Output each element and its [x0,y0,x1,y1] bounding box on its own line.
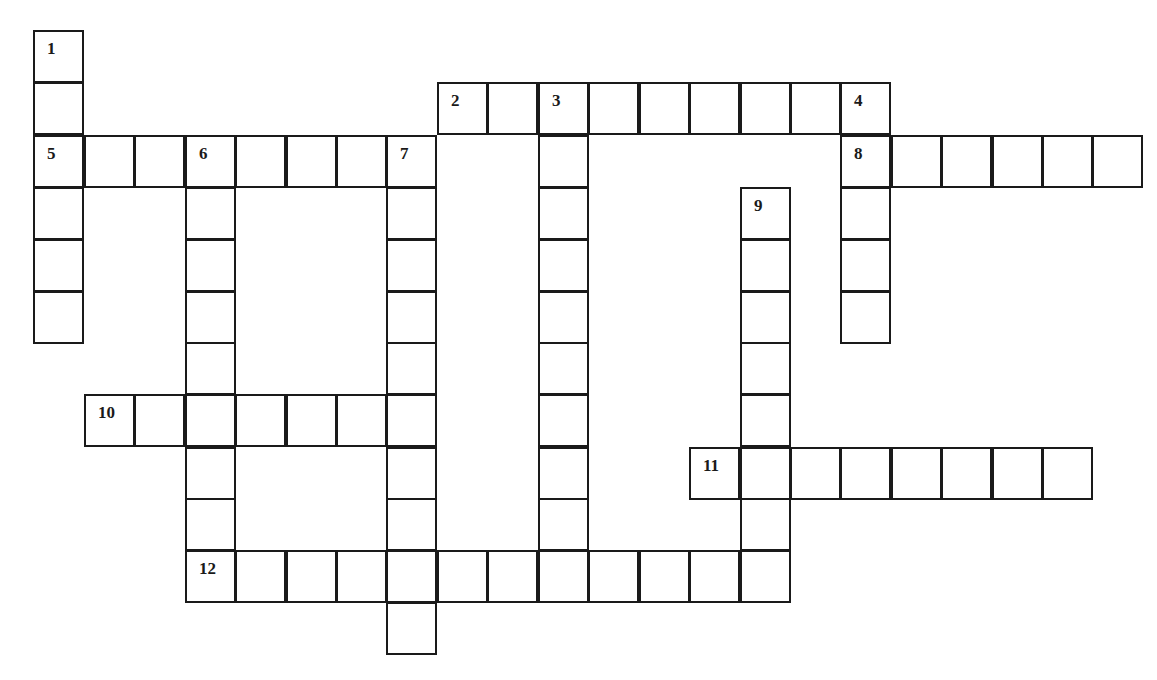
crossword-cell[interactable] [487,550,538,603]
crossword-cell[interactable] [235,394,286,447]
crossword-cell[interactable]: 10 [84,394,135,447]
crossword-cell[interactable]: 8 [840,135,891,188]
crossword-cell[interactable] [689,550,740,603]
clue-number: 7 [400,145,409,162]
crossword-cell[interactable] [386,602,437,655]
clue-number: 2 [451,92,460,109]
crossword-cell[interactable] [286,394,337,447]
crossword-cell[interactable] [1042,135,1093,188]
crossword-cell[interactable] [639,550,690,603]
clue-number: 12 [199,560,216,577]
crossword-cell[interactable] [740,342,791,395]
crossword-cell[interactable] [33,82,84,135]
crossword-cell[interactable] [992,135,1043,188]
crossword-cell[interactable]: 6 [185,135,236,188]
crossword-cell[interactable] [33,291,84,344]
crossword-cell[interactable] [286,550,337,603]
crossword-cell[interactable] [235,550,286,603]
crossword-cell[interactable]: 7 [386,135,437,188]
crossword-cell[interactable] [538,291,589,344]
crossword-cell[interactable]: 1 [33,30,84,83]
clue-number: 6 [199,145,208,162]
crossword-cell[interactable] [740,447,791,500]
crossword-cell[interactable] [336,394,387,447]
crossword-cell[interactable]: 3 [538,82,589,135]
crossword-cell[interactable] [185,291,236,344]
crossword-cell[interactable] [185,239,236,292]
crossword-grid: 152348671291011 [0,0,1157,680]
crossword-cell[interactable] [891,447,942,500]
crossword-cell[interactable] [538,187,589,240]
clue-number: 8 [854,145,863,162]
crossword-cell[interactable]: 11 [689,447,740,500]
crossword-cell[interactable] [386,291,437,344]
crossword-cell[interactable] [538,394,589,447]
crossword-cell[interactable] [336,135,387,188]
crossword-cell[interactable] [740,394,791,447]
crossword-cell[interactable] [185,447,236,500]
crossword-cell[interactable] [185,394,236,447]
crossword-cell[interactable] [840,447,891,500]
crossword-cell[interactable] [286,135,337,188]
crossword-cell[interactable] [840,291,891,344]
crossword-cell[interactable] [386,342,437,395]
crossword-cell[interactable] [386,550,437,603]
crossword-cell[interactable] [33,239,84,292]
crossword-cell[interactable] [1092,135,1143,188]
crossword-cell[interactable] [386,394,437,447]
crossword-cell[interactable] [740,550,791,603]
crossword-cell[interactable] [386,239,437,292]
crossword-cell[interactable] [740,82,791,135]
clue-number: 9 [754,197,763,214]
crossword-cell[interactable] [588,82,639,135]
crossword-cell[interactable] [386,187,437,240]
crossword-cell[interactable] [134,135,185,188]
crossword-cell[interactable] [538,447,589,500]
crossword-cell[interactable] [487,82,538,135]
crossword-cell[interactable] [538,135,589,188]
crossword-cell[interactable] [941,135,992,188]
crossword-cell[interactable] [790,82,841,135]
crossword-cell[interactable] [689,82,740,135]
crossword-cell[interactable]: 5 [33,135,84,188]
crossword-cell[interactable] [588,550,639,603]
crossword-cell[interactable] [538,498,589,551]
crossword-cell[interactable] [134,394,185,447]
crossword-cell[interactable] [538,239,589,292]
crossword-cell[interactable]: 2 [437,82,488,135]
crossword-cell[interactable] [538,550,589,603]
crossword-cell[interactable] [941,447,992,500]
crossword-cell[interactable] [740,239,791,292]
crossword-cell[interactable] [185,342,236,395]
crossword-cell[interactable] [992,447,1043,500]
crossword-cell[interactable] [84,135,135,188]
crossword-cell[interactable] [639,82,690,135]
crossword-cell[interactable] [336,550,387,603]
clue-number: 1 [47,40,56,57]
crossword-cell[interactable] [790,447,841,500]
clue-number: 5 [47,145,56,162]
crossword-cell[interactable] [235,135,286,188]
clue-number: 3 [552,92,561,109]
crossword-cell[interactable]: 12 [185,550,236,603]
crossword-cell[interactable]: 4 [840,82,891,135]
clue-number: 4 [854,92,863,109]
crossword-cell[interactable] [740,498,791,551]
crossword-cell[interactable] [386,498,437,551]
crossword-cell[interactable] [185,187,236,240]
clue-number: 11 [703,457,719,474]
crossword-cell[interactable] [185,498,236,551]
crossword-cell[interactable]: 9 [740,187,791,240]
crossword-cell[interactable] [840,187,891,240]
crossword-cell[interactable] [33,187,84,240]
crossword-cell[interactable] [1042,447,1093,500]
clue-number: 10 [98,404,115,421]
crossword-cell[interactable] [740,291,791,344]
crossword-cell[interactable] [386,447,437,500]
crossword-cell[interactable] [840,239,891,292]
crossword-cell[interactable] [538,342,589,395]
crossword-cell[interactable] [891,135,942,188]
crossword-cell[interactable] [437,550,488,603]
